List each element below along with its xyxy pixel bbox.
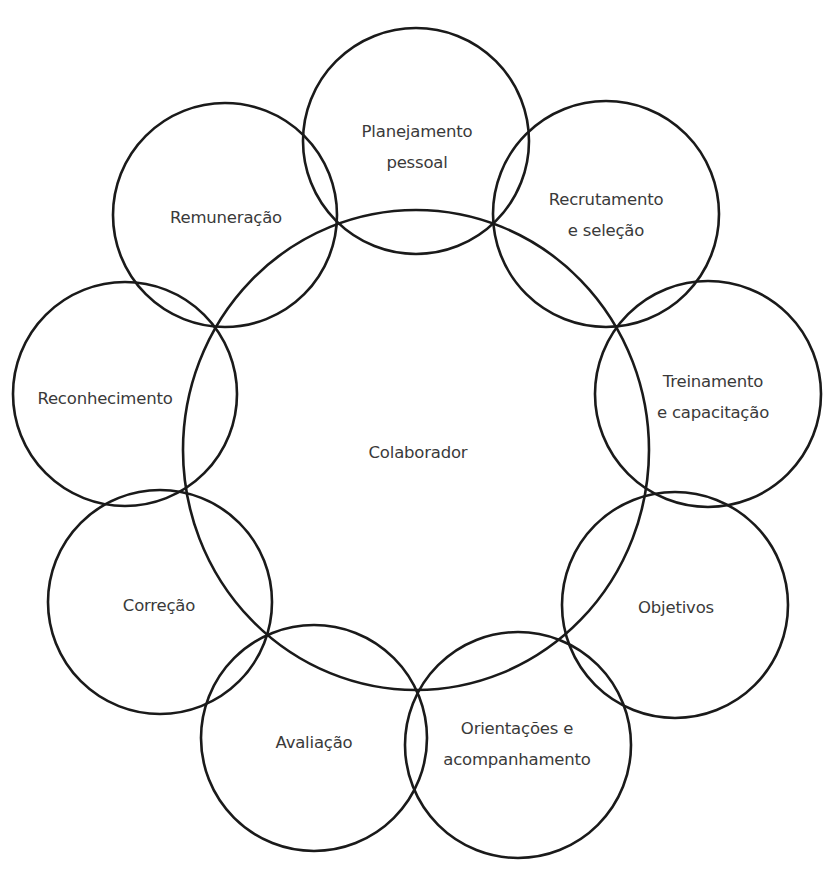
node-label-line: e capacitação <box>657 397 769 428</box>
node-label-correcao: Correção <box>123 590 195 621</box>
node-label-line: Recrutamento <box>549 184 664 215</box>
node-label-line: Reconhecimento <box>37 383 172 414</box>
node-label-objetivos: Objetivos <box>638 592 714 623</box>
node-label-line: pessoal <box>362 147 473 178</box>
node-label-line: Correção <box>123 590 195 621</box>
node-label-line: Objetivos <box>638 592 714 623</box>
node-label-reconhecimento: Reconhecimento <box>37 383 172 414</box>
node-label-line: Treinamento <box>657 366 769 397</box>
node-label-avaliacao: Avaliação <box>276 727 353 758</box>
node-label-line: acompanhamento <box>443 744 590 775</box>
node-label-line: Remuneração <box>170 202 282 233</box>
node-label-remuneracao: Remuneração <box>170 202 282 233</box>
node-label-recrutamento: Recrutamentoe seleção <box>549 184 664 246</box>
center-label-text: Colaborador <box>369 437 468 468</box>
node-label-treinamento: Treinamentoe capacitação <box>657 366 769 428</box>
node-label-line: e seleção <box>549 215 664 246</box>
node-label-line: Planejamento <box>362 116 473 147</box>
node-label-line: Orientações e <box>443 713 590 744</box>
node-label-line: Avaliação <box>276 727 353 758</box>
node-label-planejamento: Planejamentopessoal <box>362 116 473 178</box>
node-label-orientacoes: Orientações eacompanhamento <box>443 713 590 775</box>
center-label-colaborador: Colaborador <box>369 437 468 468</box>
